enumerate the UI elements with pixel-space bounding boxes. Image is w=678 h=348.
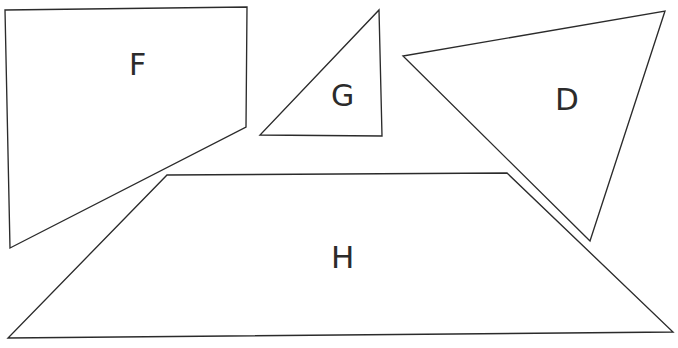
shapes-svg bbox=[0, 0, 678, 348]
shape-D bbox=[403, 11, 665, 241]
shape-label-h: H bbox=[331, 242, 354, 273]
shape-F bbox=[5, 7, 247, 248]
shape-G bbox=[260, 10, 382, 136]
shape-label-f: F bbox=[129, 50, 146, 80]
shape-label-g: G bbox=[331, 81, 354, 111]
diagram-canvas: F G D H bbox=[0, 0, 678, 348]
shape-label-d: D bbox=[555, 84, 579, 115]
